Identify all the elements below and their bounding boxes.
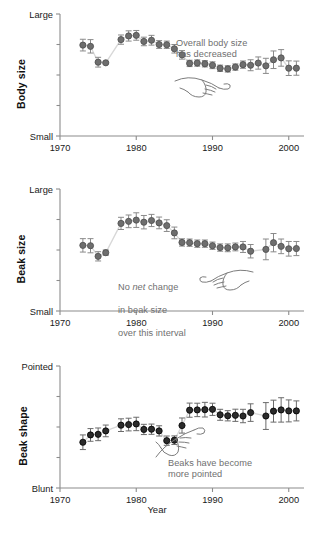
darwin-finch-figure: Body size LargeSmall1970198019902000 Ove… [0,0,314,543]
svg-text:Blunt: Blunt [32,484,54,494]
pointing-hand-icon [172,72,234,102]
svg-text:1970: 1970 [50,143,71,153]
svg-text:Large: Large [29,10,53,20]
annotation-text-part2: change [145,282,178,292]
panel-beak-size-annotation: No net change in beak size over this int… [118,271,186,339]
panel-beak-shape-annotation: Beaks have become more pointed [168,458,252,481]
xaxis-title: Year [0,504,314,515]
panel-body-size: Body size LargeSmall1970198019902000 Ove… [0,0,314,180]
svg-text:2000: 2000 [278,143,299,153]
svg-text:Pointed: Pointed [21,362,53,372]
panel-beak-shape: Beak shape PointedBlunt1970198019902000 … [0,352,314,537]
annotation-text-line2: in beak size [118,305,167,315]
svg-text:1980: 1980 [126,143,147,153]
svg-text:2000: 2000 [278,318,299,328]
annotation-text-italic: net [132,282,145,292]
svg-text:Small: Small [30,132,53,142]
svg-text:1990: 1990 [202,318,223,328]
panel-body-size-annotation: Overall body size has decreased [176,38,247,61]
panel-beak-shape-ylabel: Beak shape [17,396,29,476]
svg-text:1990: 1990 [202,143,223,153]
annotation-text-part1: No [118,282,132,292]
panel-body-size-ylabel: Body size [15,49,27,119]
pointing-hand-icon [152,424,210,460]
panel-beak-size: Beak size LargeSmall1970198019902000 No … [0,175,314,355]
svg-text:Large: Large [29,185,53,195]
svg-text:Small: Small [30,307,53,317]
annotation-text-line3: over this interval [118,328,186,338]
panel-body-size-plot: LargeSmall1970198019902000 [0,0,314,180]
pointing-hand-icon [196,266,256,294]
svg-text:1970: 1970 [50,318,71,328]
panel-beak-size-ylabel: Beak size [15,224,27,294]
